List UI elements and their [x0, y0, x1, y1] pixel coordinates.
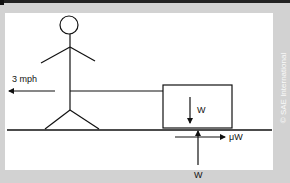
- speed-label: 3 mph: [12, 74, 37, 84]
- friction-diagram: 3 mph W W μW: [0, 0, 290, 183]
- box-weight-label: W: [197, 105, 206, 115]
- normal-force-label: W: [194, 170, 203, 180]
- right-leg: [70, 110, 99, 129]
- friction-label: μW: [229, 132, 243, 142]
- stick-figure-person: [41, 16, 99, 129]
- right-arm: [70, 47, 95, 61]
- copyright-credit: © SAE International: [279, 53, 288, 123]
- head: [60, 16, 78, 34]
- left-arm: [41, 47, 70, 63]
- left-leg: [45, 110, 70, 129]
